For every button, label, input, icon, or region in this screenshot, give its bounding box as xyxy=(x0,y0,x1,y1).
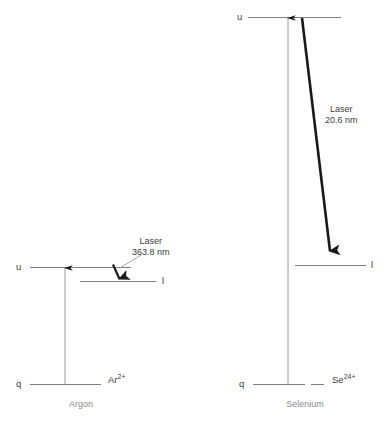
argon-ion-label: Ar2+ xyxy=(108,374,125,386)
selenium-laser-arrow xyxy=(302,18,330,251)
selenium-element-name: Selenium xyxy=(260,399,350,410)
argon-level-label-q: q xyxy=(16,378,21,390)
selenium-laser-caption: Laser 20.6 nm xyxy=(325,104,358,127)
argon-laser-caption-title: Laser xyxy=(132,236,170,247)
argon-level-label-l: l xyxy=(162,275,164,287)
selenium-ion-label: Se24+ xyxy=(332,374,356,386)
selenium-laser-caption-title: Laser xyxy=(325,104,358,115)
selenium-laser-caption-wavelength: 20.6 nm xyxy=(325,115,358,126)
argon-ion-charge: 2+ xyxy=(118,373,126,380)
selenium-ion-symbol: Se xyxy=(332,374,344,385)
selenium-level-label-u: u xyxy=(237,11,242,23)
diagram-vector-layer xyxy=(0,0,388,437)
argon-laser-arrow xyxy=(113,265,120,280)
argon-element-name: Argon xyxy=(41,399,121,410)
energy-level-diagram-figure: u l q Laser 363.8 nm Ar2+ Argon u l q La… xyxy=(0,0,388,437)
selenium-panel-graphics xyxy=(248,18,366,385)
argon-ion-symbol: Ar xyxy=(108,374,118,385)
argon-panel-graphics xyxy=(30,255,156,385)
argon-laser-caption: Laser 363.8 nm xyxy=(132,236,170,259)
selenium-level-label-q: q xyxy=(239,378,244,390)
selenium-level-label-l: l xyxy=(371,259,373,271)
argon-laser-caption-wavelength: 363.8 nm xyxy=(132,247,170,258)
argon-level-label-u: u xyxy=(16,261,21,273)
selenium-ion-charge: 24+ xyxy=(344,373,356,380)
